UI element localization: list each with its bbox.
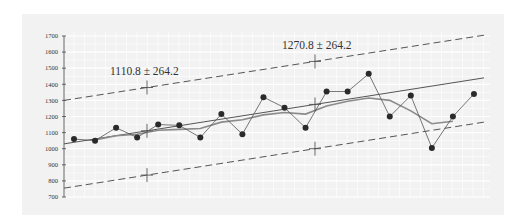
y-tick-label: 800	[48, 177, 58, 184]
annotation-right: 1270.8 ± 264.2	[282, 39, 352, 51]
data-point	[471, 91, 477, 97]
data-point	[366, 71, 372, 77]
y-tick-label: 1700	[45, 32, 58, 39]
y-tick-label: 1400	[45, 81, 58, 88]
data-point	[176, 122, 182, 128]
y-tick-label: 1600	[45, 48, 58, 55]
y-tick-label: 1300	[45, 97, 58, 104]
data-point	[218, 111, 224, 117]
data-point	[282, 105, 288, 111]
y-tick-label: 900	[48, 161, 58, 168]
y-tick-label: 1200	[45, 113, 58, 120]
data-point	[387, 114, 393, 120]
y-tick-label: 1100	[45, 129, 58, 136]
data-point	[260, 94, 266, 100]
data-point	[450, 114, 456, 120]
data-point	[303, 125, 309, 131]
data-point	[92, 138, 98, 144]
annotation-left: 1110.8 ± 264.2	[110, 65, 179, 77]
data-point	[197, 134, 203, 140]
data-point	[155, 122, 161, 128]
data-point	[134, 134, 140, 140]
data-point	[71, 136, 77, 142]
data-point	[113, 125, 119, 131]
data-point	[239, 131, 245, 137]
y-tick-label: 700	[48, 193, 58, 200]
chart: 1700160015001400130012001100100090080070…	[0, 0, 520, 222]
y-tick-label: 1000	[45, 145, 58, 152]
data-point	[429, 145, 435, 151]
data-point	[324, 89, 330, 95]
data-point	[345, 89, 351, 95]
data-point	[408, 93, 414, 99]
y-tick-label: 1500	[45, 64, 58, 71]
